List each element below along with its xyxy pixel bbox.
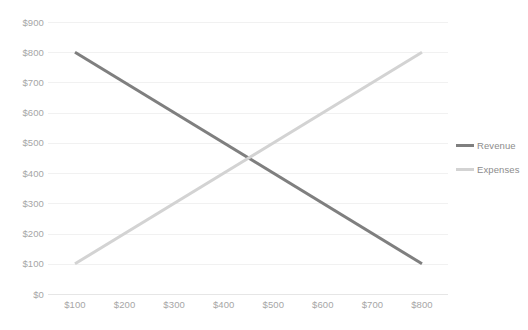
y-axis-tick-label: $400	[0, 168, 44, 179]
legend-swatch-icon	[456, 168, 474, 171]
series-lines	[48, 22, 448, 294]
legend-item-expenses[interactable]: Expenses	[456, 163, 528, 175]
legend-swatch-icon	[456, 144, 474, 147]
line-chart: $900$800$700$600$500$400$300$200$100$0 $…	[0, 0, 528, 330]
y-axis-tick-label: $200	[0, 228, 44, 239]
y-axis-tick-label: $500	[0, 137, 44, 148]
y-axis-tick-label: $900	[0, 17, 44, 28]
x-axis-labels: $100$200$300$400$500$600$700$800	[48, 299, 448, 313]
y-axis-tick-label: $800	[0, 47, 44, 58]
chart-legend: RevenueExpenses	[456, 139, 528, 187]
y-axis-tick-label: $600	[0, 107, 44, 118]
y-axis-tick-label: $300	[0, 198, 44, 209]
legend-item-revenue[interactable]: Revenue	[456, 139, 528, 151]
x-axis-tick-label: $800	[392, 299, 452, 310]
y-axis-tick-label: $0	[0, 289, 44, 300]
plot-area	[48, 22, 448, 294]
y-axis-tick-label: $700	[0, 77, 44, 88]
legend-label: Revenue	[477, 140, 516, 151]
legend-label: Expenses	[477, 164, 520, 175]
y-axis-labels: $900$800$700$600$500$400$300$200$100$0	[0, 0, 44, 330]
y-axis-tick-label: $100	[0, 258, 44, 269]
